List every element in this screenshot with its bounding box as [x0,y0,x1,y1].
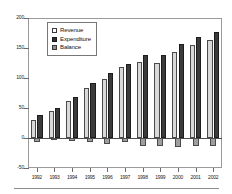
chart-page: 200150100500-50 199219931994199519961997… [0,0,232,194]
x-tick [37,168,38,172]
bar-balance-2001 [193,138,199,146]
bar-expenditure-1996 [108,73,113,138]
bar-expenditure-1999 [161,55,166,138]
y-tick [24,18,29,19]
legend-label-balance: Balance [60,44,81,51]
x-tick [160,168,161,172]
bar-expenditure-1997 [126,64,131,138]
bar-expenditure-1994 [73,97,78,138]
legend-item-revenue: Revenue [52,27,91,35]
bar-expenditure-2000 [179,44,184,138]
bar-expenditure-1998 [143,55,148,138]
y-tick [24,168,29,169]
chart-legend: Revenue Expenditure Balance [47,22,97,56]
x-tick [213,168,214,172]
x-tick-label: 2002 [202,174,224,180]
bar-expenditure-2001 [196,37,201,138]
bar-expenditure-1993 [55,108,60,138]
y-tick-label: 200 [0,15,24,20]
y-tick [24,108,29,109]
bar-revenue-1997 [119,67,124,138]
x-tick [125,168,126,172]
bar-expenditure-1995 [90,83,95,138]
bar-revenue-1998 [137,62,142,138]
bar-revenue-1999 [154,63,159,138]
bar-revenue-2000 [172,52,177,138]
y-tick [24,48,29,49]
bar-revenue-2001 [190,45,195,138]
x-tick [54,168,55,172]
x-tick [196,168,197,172]
bar-balance-1998 [140,138,146,146]
bar-balance-2002 [210,138,216,146]
bar-expenditure-2002 [214,32,219,138]
y-tick-label: 100 [0,75,24,80]
bar-revenue-1994 [66,101,71,138]
bar-revenue-1993 [49,111,54,138]
balance-swatch-icon [52,45,57,50]
y-tick-label: -50 [0,165,24,170]
y-tick-label: 50 [0,105,24,110]
x-tick [143,168,144,172]
legend-label-expenditure: Expenditure [60,36,91,43]
legend-item-expenditure: Expenditure [52,35,91,43]
bar-balance-2000 [175,138,181,147]
expenditure-swatch-icon [52,37,57,42]
bar-revenue-2002 [207,40,212,138]
y-tick-label: 0 [0,135,24,140]
y-tick-label: 150 [0,45,24,50]
y-tick [24,78,29,79]
legend-item-balance: Balance [52,44,91,52]
zero-baseline [28,138,222,139]
bar-revenue-1996 [102,79,107,138]
bar-balance-1999 [157,138,163,146]
x-tick [107,168,108,172]
bar-expenditure-1992 [37,115,42,138]
bar-chart: 200150100500-50 199219931994199519961997… [0,0,232,176]
footer-divider [14,188,219,189]
revenue-swatch-icon [52,28,57,33]
bar-revenue-1992 [31,120,36,138]
legend-label-revenue: Revenue [60,27,83,34]
x-tick [178,168,179,172]
x-tick [90,168,91,172]
x-tick [72,168,73,172]
bar-revenue-1995 [84,88,89,138]
